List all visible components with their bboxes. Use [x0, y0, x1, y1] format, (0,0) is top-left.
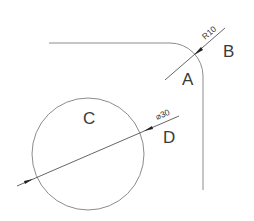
label-c: C: [83, 109, 95, 128]
diameter-dimension-text: ⌀30: [154, 107, 172, 122]
corner-outline: [49, 43, 203, 190]
diameter-arrowhead-right-icon: [144, 126, 153, 131]
diameter-arrowhead-left-icon: [24, 179, 33, 184]
radius-dimension-text: R10: [200, 24, 219, 42]
label-b: B: [223, 42, 234, 61]
label-a: A: [182, 70, 194, 89]
diameter-line: [17, 116, 179, 186]
radius-arrowhead-icon: [194, 47, 203, 55]
label-d: D: [163, 128, 175, 147]
drawing-canvas: R10 ⌀30 A B C D: [0, 0, 254, 221]
